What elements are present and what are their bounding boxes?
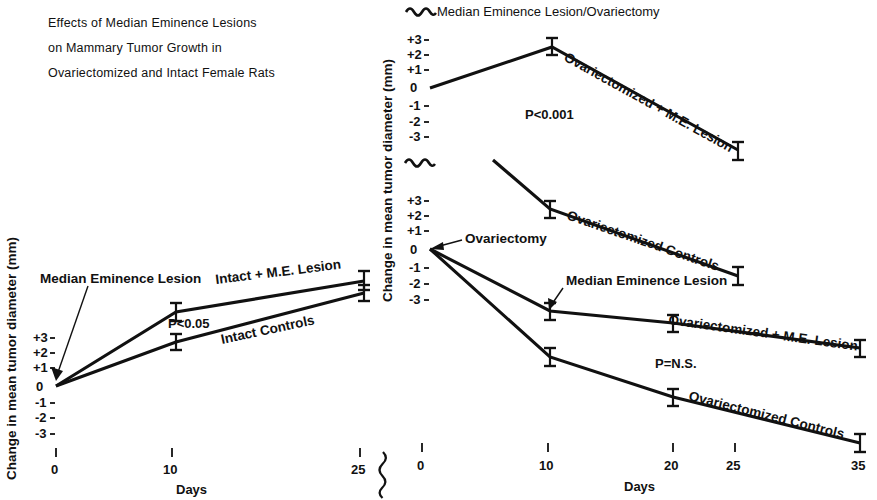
legend: Median Eminence Lesion/Ovariectomy (406, 4, 660, 19)
right-x-axis: 0 10 20 25 35 Days (417, 443, 865, 494)
left-ytick-m1: -1 (35, 395, 47, 410)
rt-ytick-p1: +1 (407, 62, 422, 77)
left-callout-arrow (51, 286, 88, 381)
figure-canvas: Effects of Median Eminence Lesions on Ma… (0, 0, 877, 500)
rb-callout-me-lesion-label: Median Eminence Lesion (566, 273, 727, 288)
rt-ytick-p2: +2 (407, 47, 422, 62)
rt-ytick-m3: -3 (409, 129, 421, 144)
left-y-ticks: +3 +2 +1 0 -1 -2 -3 (33, 330, 55, 441)
right-xtick-10: 10 (539, 458, 553, 473)
rb-ytick-0: 0 (410, 242, 417, 257)
rb-callout-ovariectomy-label: Ovariectomy (465, 231, 547, 246)
figure-root: Effects of Median Eminence Lesions on Ma… (0, 0, 877, 500)
left-x-axis: 0 10 25 Days (51, 448, 365, 497)
rb-ytick-m2: -2 (409, 276, 421, 291)
left-y-axis-label: Change in mean tumor diameter (mm) (4, 237, 19, 480)
left-x-axis-label: Days (176, 482, 207, 497)
left-ytick-m3: -3 (35, 426, 47, 441)
rb-ytick-p2: +2 (407, 208, 422, 223)
rb-y-ticks: +3 +2 +1 0 -1 -2 -3 (407, 193, 429, 307)
right-xtick-20: 20 (664, 458, 678, 473)
rb-ytick-m3: -3 (409, 292, 421, 307)
rb-ytick-m1: -1 (409, 260, 421, 275)
rb-ytick-p3: +3 (407, 193, 422, 208)
rt-y-ticks: +3 +2 +1 0 -1 -2 -3 (407, 32, 429, 144)
title-line-2: on Mammary Tumor Growth in (48, 41, 222, 55)
title-line-3: Ovariectomized and Intact Female Rats (48, 66, 275, 80)
rt-ytick-p3: +3 (407, 32, 422, 47)
figure-title: Effects of Median Eminence Lesions on Ma… (48, 16, 275, 80)
rb-series-label-bottom: Ovariectomized Controls (687, 388, 846, 441)
axis-break-squiggle-icon (380, 452, 386, 498)
title-line-1: Effects of Median Eminence Lesions (48, 16, 257, 30)
left-callout-label: Median Eminence Lesion (40, 271, 201, 286)
panel-separator-squiggle-icon (405, 160, 435, 167)
left-ytick-p1: +1 (33, 360, 48, 375)
rb-series-label-mid: Ovariectomized + M.E. Lesion (668, 312, 859, 353)
left-pvalue: P<0.05 (168, 316, 210, 331)
rt-ytick-m2: -2 (409, 114, 421, 129)
right-y-axis-label: Change in mean tumor diameter (mm) (380, 59, 395, 302)
right-xtick-0: 0 (417, 458, 424, 473)
rt-errorbar-d10 (546, 38, 558, 55)
right-top-chart: +3 +2 +1 0 -1 -2 -3 (405, 32, 744, 167)
left-panel: Change in mean tumor diameter (mm) +3 +2… (4, 237, 386, 498)
left-xtick-25: 25 (351, 462, 365, 477)
right-xtick-35: 35 (851, 458, 865, 473)
legend-label: Median Eminence Lesion/Ovariectomy (437, 4, 660, 19)
left-series-label-top: Intact + M.E. Lesion (215, 257, 342, 287)
rb-ytick-p1: +1 (407, 223, 422, 238)
left-ytick-m2: -2 (35, 410, 47, 425)
rb-pvalue: P=N.S. (655, 356, 697, 371)
legend-squiggle-icon (406, 9, 436, 16)
left-xtick-0: 0 (51, 462, 58, 477)
rb-callout-me-lesion (548, 288, 563, 310)
rt-pvalue: P<0.001 (525, 107, 574, 122)
left-ytick-0: 0 (36, 379, 43, 394)
left-ytick-p2: +2 (33, 345, 48, 360)
rt-series-label: Ovariectomized + M.E. Lesion (562, 50, 736, 156)
right-bottom-chart: +3 +2 +1 0 -1 -2 -3 (407, 160, 866, 494)
rb-callout-ovariectomy (430, 240, 462, 250)
rb-series-label-top: Ovariectomized Controls (565, 208, 721, 274)
rt-ytick-0: 0 (410, 80, 417, 95)
right-xtick-25: 25 (726, 458, 740, 473)
right-x-axis-label: Days (624, 479, 655, 494)
rt-ytick-m1: -1 (409, 98, 421, 113)
left-ytick-p3: +3 (33, 330, 48, 345)
left-xtick-10: 10 (163, 462, 177, 477)
right-panel: Change in mean tumor diameter (mm) Media… (380, 4, 866, 494)
